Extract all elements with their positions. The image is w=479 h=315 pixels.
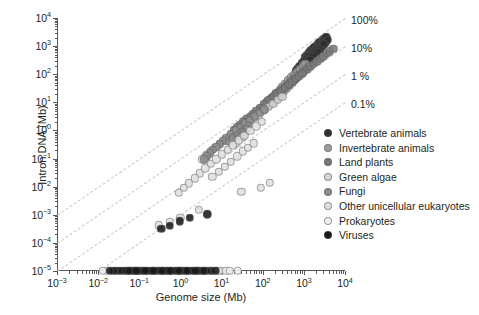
y-minor-tick <box>55 165 58 166</box>
y-minor-tick <box>55 191 58 192</box>
x-minor-tick <box>291 271 292 274</box>
data-point-other-unicellular-eukaryotes <box>266 178 274 186</box>
data-point-viruses <box>186 213 194 221</box>
figure-root: Intron DNA (Mb) 100%10%1 %0.1%10−310−210… <box>0 0 479 315</box>
legend-item-land-plants[interactable]: Land plants <box>318 155 470 170</box>
legend-marker-icon <box>324 217 332 225</box>
y-tick-label: 102 <box>36 69 51 80</box>
y-minor-tick <box>55 117 58 118</box>
y-minor-tick <box>55 83 58 84</box>
x-minor-tick <box>94 271 95 274</box>
legend-marker-icon <box>324 129 332 137</box>
legend-item-viruses[interactable]: Viruses <box>318 228 470 243</box>
y-minor-tick <box>55 79 58 80</box>
x-minor-tick <box>246 271 247 274</box>
y-minor-tick <box>55 218 58 219</box>
y-minor-tick <box>55 55 58 56</box>
y-minor-tick <box>55 167 58 168</box>
reference-line-label: 10% <box>351 42 372 54</box>
data-point-prokaryotes <box>234 267 242 275</box>
y-tick-label: 10−1 <box>32 153 51 164</box>
x-minor-tick <box>323 271 324 274</box>
legend-item-label: Fungi <box>339 186 365 197</box>
legend-item-other-unicellular-eukaryotes[interactable]: Other unicellular eukaryotes <box>318 199 470 214</box>
x-minor-tick <box>261 271 262 274</box>
y-minor-tick <box>55 85 58 86</box>
legend-marker-icon <box>324 231 332 239</box>
legend-item-label: Green algae <box>339 172 397 183</box>
y-minor-tick <box>55 145 58 146</box>
x-tick <box>263 271 264 275</box>
x-tick <box>57 271 58 275</box>
y-minor-tick <box>55 77 58 78</box>
y-minor-tick <box>55 57 58 58</box>
y-minor-tick <box>55 161 58 162</box>
y-minor-tick <box>55 114 58 115</box>
x-minor-tick <box>96 271 97 274</box>
x-minor-tick <box>295 271 296 274</box>
x-minor-tick <box>250 271 251 274</box>
y-minor-tick <box>55 66 58 67</box>
y-tick-label: 104 <box>36 13 51 24</box>
y-tick <box>53 271 57 272</box>
y-minor-tick <box>55 76 58 77</box>
x-minor-tick <box>89 271 90 274</box>
y-axis-title-text: Intron DNA (Mb) <box>36 105 48 184</box>
legend-marker-icon <box>324 188 332 196</box>
x-minor-tick <box>282 271 283 274</box>
legend-item-label: Viruses <box>339 230 374 241</box>
y-minor-tick <box>55 188 58 189</box>
y-minor-tick <box>55 89 58 90</box>
y-minor-tick <box>55 226 58 227</box>
y-minor-tick <box>55 221 58 222</box>
data-point-viruses <box>175 217 183 225</box>
x-tick-label: 103 <box>296 278 311 289</box>
x-minor-tick <box>333 271 334 274</box>
x-minor-tick <box>343 271 344 274</box>
legend-marker-icon <box>324 202 332 210</box>
y-minor-tick <box>55 104 58 105</box>
y-tick-label: 101 <box>36 97 51 108</box>
legend-item-fungi[interactable]: Fungi <box>318 184 470 199</box>
reference-line-label: 1 % <box>351 70 369 82</box>
y-minor-tick <box>55 254 58 255</box>
y-minor-tick <box>55 195 58 196</box>
x-minor-tick <box>77 271 78 274</box>
x-minor-tick <box>259 271 260 274</box>
y-minor-tick <box>55 38 58 39</box>
x-minor-tick <box>336 271 337 274</box>
y-minor-tick <box>55 49 58 50</box>
y-minor-tick <box>55 29 58 30</box>
y-tick-label: 10−5 <box>32 266 51 277</box>
x-tick-label: 101 <box>214 278 229 289</box>
y-minor-tick <box>55 109 58 110</box>
y-minor-tick <box>55 244 58 245</box>
y-minor-tick <box>55 61 58 62</box>
y-minor-tick <box>55 258 58 259</box>
y-minor-tick <box>55 163 58 164</box>
y-axis-title: Intron DNA (Mb) <box>0 18 22 271</box>
y-minor-tick <box>55 137 58 138</box>
legend-item-invertebrate-animals[interactable]: Invertebrate animals <box>318 141 470 156</box>
x-minor-tick <box>256 271 257 274</box>
y-minor-tick <box>55 263 58 264</box>
y-minor-tick <box>55 135 58 136</box>
legend-item-vertebrate-animals[interactable]: Vertebrate animals <box>318 126 470 141</box>
x-tick <box>345 271 346 275</box>
data-point-other-unicellular-eukaryotes <box>237 188 245 196</box>
y-minor-tick <box>55 150 58 151</box>
x-tick-label: 10−3 <box>47 278 66 289</box>
legend-item-prokaryotes[interactable]: Prokaryotes <box>318 214 470 229</box>
y-minor-tick <box>55 251 58 252</box>
y-minor-tick <box>55 246 58 247</box>
y-minor-tick <box>55 198 58 199</box>
x-tick-label: 100 <box>173 278 188 289</box>
data-point-viruses <box>203 210 211 218</box>
legend-item-label: Prokaryotes <box>339 216 395 227</box>
data-point-other-unicellular-eukaryotes <box>257 184 265 192</box>
y-minor-tick <box>55 139 58 140</box>
data-point-other-unicellular-eukaryotes <box>258 118 266 126</box>
legend-item-green-algae[interactable]: Green algae <box>318 170 470 185</box>
data-point-other-unicellular-eukaryotes <box>227 158 235 166</box>
y-minor-tick <box>55 21 58 22</box>
